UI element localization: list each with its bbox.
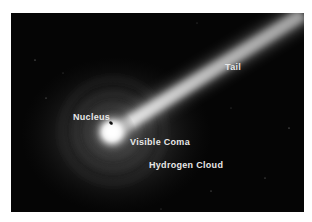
comet-diagram: Tail Nucleus Visible Coma Hydrogen Cloud bbox=[11, 13, 304, 212]
tail-label: Tail bbox=[225, 63, 241, 72]
visible-coma-label: Visible Coma bbox=[130, 138, 190, 147]
hydrogen-cloud-label: Hydrogen Cloud bbox=[149, 161, 223, 170]
comet-illustration bbox=[11, 13, 304, 212]
nucleus-label: Nucleus bbox=[73, 113, 110, 122]
